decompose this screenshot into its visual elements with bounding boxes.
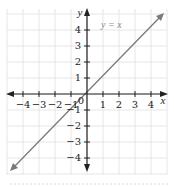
y-axis-label: y: [77, 6, 83, 18]
x-tick-label: 3: [132, 99, 138, 110]
y-tick-label: 3: [75, 40, 81, 51]
y-axis-arrow-down-icon: [84, 164, 90, 172]
x-tick-label: 1: [100, 99, 106, 110]
x-tick-labels: −4 −3 −2 −1 1 2 3 4: [16, 99, 155, 110]
x-axis-label: x: [160, 94, 166, 106]
x-tick-label: 4: [148, 99, 154, 110]
y-tick-label: −2: [66, 120, 81, 131]
function-label: y = x: [100, 19, 122, 30]
x-tick-label: −3: [32, 99, 47, 110]
y-tick-label: −3: [66, 136, 81, 147]
x-tick-label: −2: [48, 99, 63, 110]
origin-label: 0: [78, 95, 84, 106]
y-tick-label: 2: [75, 56, 81, 67]
x-tick-label: 2: [116, 99, 122, 110]
y-tick-label: 4: [75, 24, 81, 35]
y-axis-arrow-up-icon: [84, 8, 90, 16]
x-tick-label: −4: [16, 99, 31, 110]
y-tick-label: 1: [75, 72, 81, 83]
coordinate-plane: −4 −3 −2 −1 1 2 3 4 4 3 2 1 −1 −2 −3 −4 …: [0, 0, 174, 187]
y-tick-label: −4: [66, 152, 81, 163]
